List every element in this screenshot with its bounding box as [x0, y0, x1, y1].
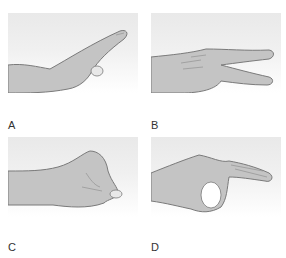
panel-label-c: C — [8, 241, 16, 253]
panel-c — [8, 137, 138, 217]
panel-d — [151, 137, 281, 217]
hand-pointing-icon — [8, 13, 138, 93]
hand-ok-sign-icon — [151, 137, 281, 217]
hand-v-sign-icon — [151, 13, 281, 93]
panel-a — [8, 13, 138, 93]
panel-label-b: B — [151, 119, 158, 131]
hand-fist-icon — [8, 137, 138, 217]
panel-label-a: A — [8, 119, 15, 131]
panel-label-d: D — [151, 241, 159, 253]
panel-b — [151, 13, 281, 93]
